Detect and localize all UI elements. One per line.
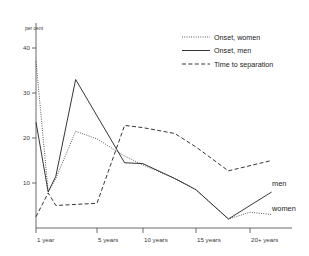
y-tick-label: 30 xyxy=(23,89,30,96)
x-tick-label: 1 year xyxy=(37,236,54,243)
series-group xyxy=(36,62,272,220)
legend-label: Onset, women xyxy=(214,33,260,42)
chart-container: 10203040 per cent 1 year5 years10 years1… xyxy=(0,0,309,256)
legend-label: Time to separation xyxy=(214,60,273,69)
end-label-men: men xyxy=(272,179,286,188)
end-label-group: menwomen xyxy=(271,179,296,213)
y-tick-label: 10 xyxy=(23,179,30,186)
y-axis-group: 10203040 per cent xyxy=(23,23,44,228)
y-tick-group: 10203040 xyxy=(23,44,36,186)
series-line-onset-men xyxy=(36,80,272,220)
series-line-onset-women xyxy=(36,62,272,220)
line-chart: 10203040 per cent 1 year5 years10 years1… xyxy=(0,0,309,256)
x-tick-label: 5 years xyxy=(98,236,118,243)
chart-legend: Onset, womenOnset, menTime to separation xyxy=(182,33,273,69)
x-tick-label: 15 years xyxy=(197,236,221,243)
x-tick-group: 1 year5 years10 years15 years20+ years xyxy=(36,228,278,243)
legend-label: Onset, men xyxy=(214,46,251,55)
x-axis-group: 1 year5 years10 years15 years20+ years xyxy=(36,228,292,243)
series-line-time-to-separation xyxy=(36,125,272,216)
y-axis-title: per cent xyxy=(25,25,44,31)
end-label-women: women xyxy=(271,204,296,213)
y-tick-label: 40 xyxy=(23,44,30,51)
x-tick-label: 20+ years xyxy=(251,236,278,243)
y-tick-label: 20 xyxy=(23,134,30,141)
x-tick-label: 10 years xyxy=(144,236,168,243)
